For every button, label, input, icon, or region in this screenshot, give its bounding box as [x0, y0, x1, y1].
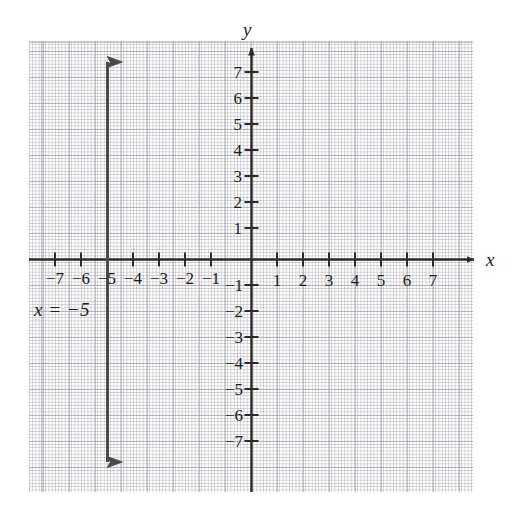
y-tick-label-7: 7 — [234, 64, 243, 81]
x-axis-label: x — [486, 250, 494, 269]
x-tick-label--7: −7 — [46, 270, 64, 287]
y-tick-label-2: 2 — [234, 194, 243, 211]
x-tick-label--6: −6 — [72, 270, 90, 287]
y-axis-label: y — [243, 20, 251, 39]
y-tick-label-6: 6 — [234, 90, 243, 107]
x-tick-label--4: −4 — [124, 270, 142, 287]
graph-screenshot: x y −7 −6 −5 −4 −3 −2 −1 1 2 3 4 5 6 7 1… — [0, 0, 515, 515]
x-tick-label-6: 6 — [403, 272, 412, 289]
x-tick-label--2: −2 — [176, 270, 194, 287]
y-tick-label-1: 1 — [234, 220, 243, 237]
y-tick-label--5: −5 — [225, 381, 243, 398]
x-tick-label--3: −3 — [150, 270, 168, 287]
y-tick-label-5: 5 — [234, 116, 243, 133]
y-tick-label--1: −1 — [225, 277, 243, 294]
x-tick-label-7: 7 — [429, 272, 438, 289]
x-tick-label--5: −5 — [98, 270, 116, 287]
x-tick-label-2: 2 — [299, 272, 308, 289]
y-tick-label--6: −6 — [225, 407, 243, 424]
y-tick-label-4: 4 — [234, 142, 243, 159]
x-tick-label-4: 4 — [351, 272, 360, 289]
y-tick-label--3: −3 — [225, 329, 243, 346]
equation-annotation: x = −5 — [34, 299, 90, 321]
y-tick-label--2: −2 — [225, 303, 243, 320]
y-tick-label--7: −7 — [225, 433, 243, 450]
x-tick-label-1: 1 — [273, 272, 282, 289]
coordinate-plane-svg — [0, 0, 515, 515]
y-tick-label--4: −4 — [225, 355, 243, 372]
x-tick-label--1: −1 — [202, 270, 220, 287]
y-tick-label-3: 3 — [234, 168, 243, 185]
x-tick-label-5: 5 — [377, 272, 386, 289]
y-axis — [245, 48, 259, 492]
x-tick-label-3: 3 — [325, 272, 334, 289]
